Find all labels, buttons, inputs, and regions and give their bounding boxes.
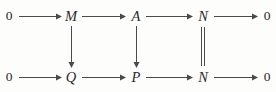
arrow-top-a-to-n <box>146 12 192 21</box>
arrow-bottom-p-to-n <box>146 73 192 82</box>
arrow-top-n-to-zero <box>214 12 257 21</box>
node-bottom-zero-left: 0 <box>6 70 13 84</box>
arrow-shaft <box>146 16 192 17</box>
node-bottom-p: P <box>132 70 141 85</box>
arrow-bottom-zero-to-q <box>19 73 61 82</box>
node-top-a: A <box>132 9 141 24</box>
arrow-shaft <box>82 77 125 78</box>
arrow-shaft <box>214 77 257 78</box>
arrow-head <box>120 13 126 19</box>
node-bottom-zero-right: 0 <box>264 70 271 84</box>
arrow-bottom-n-to-zero <box>214 73 257 82</box>
node-bottom-n: N <box>198 70 208 85</box>
arrow-shaft <box>214 16 257 17</box>
arrow-shaft <box>82 16 125 17</box>
arrow-head <box>68 62 74 68</box>
arrow-head <box>120 74 126 80</box>
arrow-shaft <box>71 26 72 67</box>
arrow-shaft <box>19 77 61 78</box>
arrow-shaft <box>146 77 192 78</box>
arrow-head <box>187 13 193 19</box>
arrow-head <box>252 74 258 80</box>
arrow-shaft <box>136 26 137 67</box>
arrow-head <box>133 62 139 68</box>
arrow-head <box>187 74 193 80</box>
arrow-top-m-to-a <box>82 12 125 21</box>
node-top-n: N <box>198 9 208 24</box>
arrow-head <box>56 13 62 19</box>
node-bottom-q: Q <box>66 70 76 85</box>
arrow-bottom-q-to-p <box>82 73 125 82</box>
arrow-top-zero-to-m <box>19 12 61 21</box>
node-top-zero-left: 0 <box>6 9 13 23</box>
identity-n-to-n <box>201 27 205 66</box>
node-top-zero-right: 0 <box>264 9 271 23</box>
arrow-head <box>252 13 258 19</box>
arrow-head <box>56 74 62 80</box>
arrow-m-to-q <box>67 26 76 67</box>
commutative-diagram: 0 M A N 0 0 Q P N 0 <box>0 0 276 92</box>
identity-bar-right <box>204 27 205 66</box>
arrow-a-to-p <box>132 26 141 67</box>
node-top-m: M <box>65 9 77 24</box>
arrow-shaft <box>19 16 61 17</box>
identity-bar-left <box>201 27 202 66</box>
